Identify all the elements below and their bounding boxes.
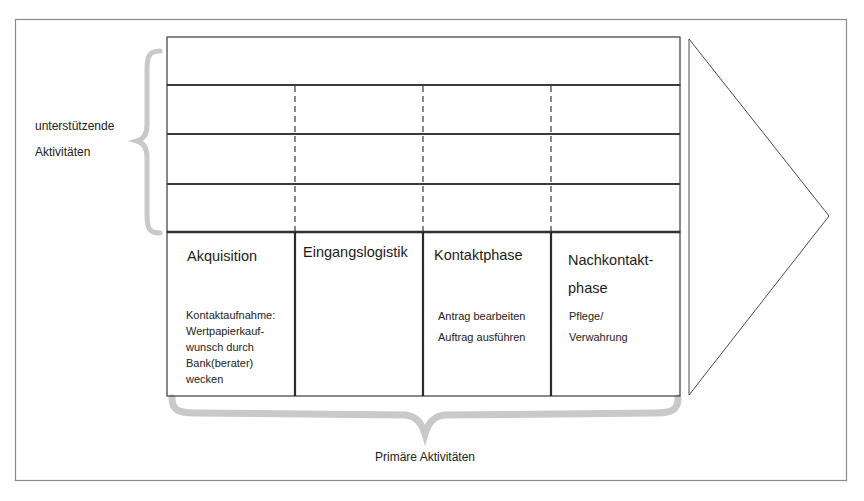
support-label-line-1: unterstützende (35, 113, 114, 139)
activity-title-nachkontaktphase: Nachkontakt- phase (568, 246, 653, 302)
detail-line: Bank(berater) (186, 355, 275, 371)
activity-details-akquisition: Kontaktaufnahme: Wertpapierkauf- wunsch … (186, 307, 275, 387)
activity-title-akquisition: Akquisition (187, 248, 257, 264)
detail-line: Pflege/ (569, 306, 628, 327)
infrastructure-row (167, 37, 680, 85)
activity-title-line: Nachkontakt- (568, 246, 653, 274)
primary-activities-brace (172, 398, 678, 434)
activity-details-kontaktphase: Antrag bearbeiten Auftrag ausführen (438, 306, 525, 348)
activity-details-nachkontaktphase: Pflege/ Verwahrung (569, 306, 628, 348)
primary-activities-label: Primäre Aktivitäten (0, 450, 850, 464)
value-chain-arrow (689, 39, 829, 395)
support-activities-brace (137, 51, 160, 233)
detail-line: Wertpapierkauf- (186, 323, 275, 339)
support-activities-label: unterstützende Aktivitäten (35, 113, 114, 165)
detail-line: Kontaktaufnahme: (186, 307, 275, 323)
detail-line: Verwahrung (569, 327, 628, 348)
detail-line: wunsch durch (186, 339, 275, 355)
detail-line: Auftrag ausführen (438, 327, 525, 348)
activity-title-eingangslogistik: Eingangslogistik (303, 244, 408, 260)
detail-line: wecken (186, 371, 275, 387)
activity-title-kontaktphase: Kontaktphase (434, 247, 523, 263)
detail-line: Antrag bearbeiten (438, 306, 525, 327)
value-chain-diagram (0, 0, 864, 501)
support-label-line-2: Aktivitäten (35, 139, 114, 165)
activity-title-line: phase (568, 274, 653, 302)
